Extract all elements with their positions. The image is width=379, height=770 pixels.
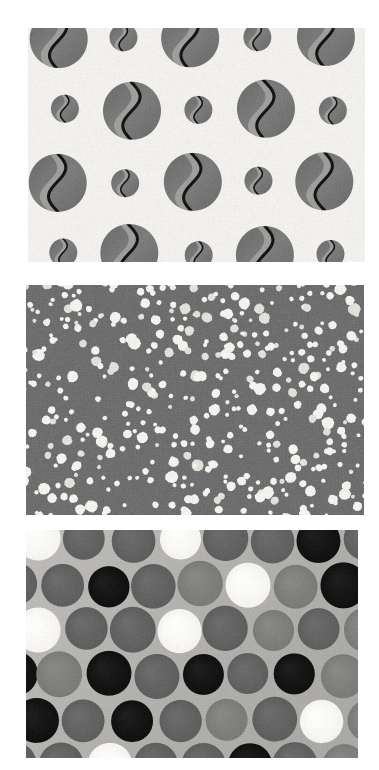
fabric-panel-large-polka-dots bbox=[26, 530, 358, 758]
image-canvas bbox=[0, 0, 379, 770]
coffee-bean-fabric-render bbox=[28, 28, 365, 262]
large-polka-dot-fabric-render bbox=[26, 530, 358, 758]
fabric-panel-white-speckle-dots bbox=[26, 285, 364, 515]
white-speckle-fabric-render bbox=[26, 285, 364, 515]
fabric-panel-coffee-bean-dots bbox=[28, 28, 365, 262]
